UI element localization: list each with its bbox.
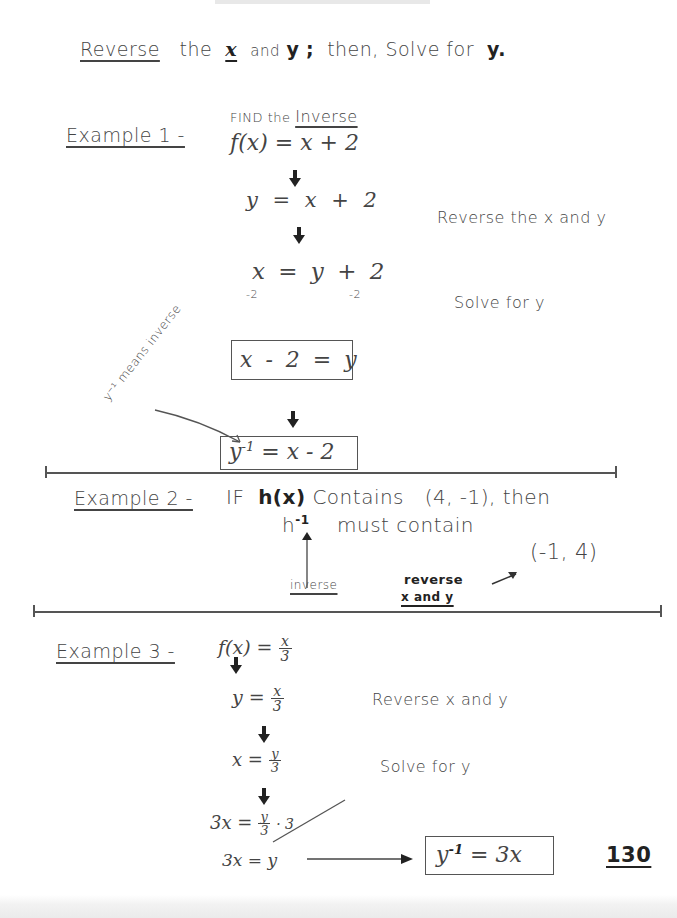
denominator: 3	[271, 699, 284, 713]
subtitle-inverse: Inverse	[295, 107, 357, 126]
down-arrow-icon	[287, 419, 299, 428]
fraction: y3	[258, 810, 270, 837]
boxed-result-3: y-1 = 3x	[425, 836, 554, 875]
intro-y: y	[286, 38, 299, 60]
numerator: y	[269, 747, 281, 761]
example1-step3: x = y + 2	[252, 258, 384, 284]
example3-step2-lhs: y =	[232, 686, 265, 708]
boxed-result-2: y-1 = x - 2	[220, 436, 358, 470]
intro-text-the: the	[180, 38, 213, 60]
right-arrow-icon	[305, 851, 415, 867]
intro-line: Reverse the x and y ; then, Solve for y.	[80, 38, 506, 60]
example2-hinv-sup: -1	[295, 513, 309, 527]
example2-note-xy: x and y	[401, 590, 454, 604]
example3-step1-lhs: f(x) =	[218, 636, 273, 658]
cancel-strike	[270, 797, 350, 847]
example3-step2-note: Reverse x and y	[372, 690, 508, 709]
divider-1-tick-left	[45, 466, 47, 478]
result-sup: -1	[448, 842, 463, 857]
down-arrow-icon	[258, 796, 270, 805]
boxed2-sup: -1	[241, 439, 254, 454]
example2-point2: (-1, 4)	[530, 540, 598, 564]
divider-2	[34, 611, 662, 613]
result-rhs: = 3x	[463, 842, 522, 867]
boxed-result-1: x - 2 = y	[231, 340, 353, 380]
fraction: y3	[269, 747, 281, 774]
example2-hinv: h	[282, 513, 295, 537]
example3-step3-note: Solve for y	[380, 757, 471, 776]
boxed-result-3-text: y-1 = 3x	[436, 842, 522, 867]
example1-step3-sub-left: -2	[246, 288, 258, 301]
numerator: x	[279, 634, 292, 649]
example2-func: h(x)	[258, 485, 305, 509]
boxed-result-1-text: x - 2 = y	[240, 347, 357, 372]
example2-if: IF	[226, 485, 244, 509]
inverse-annotation: y⁻¹ means inverse	[100, 302, 184, 404]
numerator: y	[258, 810, 270, 824]
divider-1-tick-right	[615, 466, 617, 478]
example1-step2: y = x + 2	[246, 188, 377, 212]
down-arrow-icon	[258, 734, 270, 743]
numerator: x	[271, 684, 284, 699]
down-arrow-icon	[289, 178, 301, 187]
intro-semicolon: ;	[306, 38, 314, 60]
boxed2-lhs: y	[229, 439, 241, 464]
denominator: 3	[258, 824, 270, 837]
example2-contains: Contains	[312, 485, 404, 509]
example2-note-inverse: inverse	[290, 578, 338, 592]
boxed2-rhs: = x - 2	[254, 439, 334, 464]
example3-step5: 3x = y	[222, 850, 277, 870]
divider-2-tick-left	[33, 605, 35, 617]
example3-step3-lhs: x =	[232, 749, 263, 770]
down-arrow-icon	[230, 665, 242, 674]
example2-point1: (4, -1),	[425, 485, 496, 509]
intro-y2: y.	[487, 38, 506, 60]
denominator: 3	[279, 649, 292, 663]
intro-and: and	[250, 42, 280, 60]
denominator: 3	[269, 761, 281, 774]
scan-edge	[0, 895, 677, 918]
example2-note-reverse: reverse	[404, 572, 463, 587]
subtitle-find: FIND the	[230, 110, 291, 125]
example3-step2: y = x3	[232, 684, 284, 713]
intro-reverse-word: Reverse	[80, 38, 160, 60]
boxed-result-2-text: y-1 = x - 2	[229, 439, 335, 464]
fraction: x3	[279, 634, 292, 663]
example1-label: Example 1 -	[66, 124, 185, 146]
example3-label: Example 3 -	[56, 640, 175, 662]
example1-step1: f(x) = x + 2	[230, 130, 359, 155]
example1-step2-note: Reverse the x and y	[437, 208, 606, 227]
page-number: 130	[606, 843, 651, 867]
example3-step3: x = y3	[232, 747, 281, 774]
example2-must-contain: must contain	[337, 513, 474, 537]
example3-step4-lhs: 3x =	[210, 812, 252, 833]
example2-label: Example 2 -	[74, 487, 193, 509]
example1-step3-sub-right: -2	[349, 288, 361, 301]
intro-x: x	[225, 38, 237, 60]
intro-text-then: then, Solve for	[327, 38, 474, 60]
divider-2-tick-right	[660, 605, 662, 617]
example3-step1: f(x) = x3	[218, 634, 292, 663]
example1-subtitle: FIND the Inverse	[230, 107, 358, 126]
fraction: x3	[271, 684, 284, 713]
result-lhs: y	[436, 842, 448, 867]
down-arrow-icon	[293, 235, 305, 244]
divider-1	[46, 472, 616, 474]
example2-line1: IF h(x) Contains (4, -1), then	[226, 485, 550, 509]
diagonal-arrow-icon	[490, 568, 522, 588]
scan-edge	[215, 0, 430, 4]
example2-then: then	[503, 485, 551, 509]
example1-step3-note: Solve for y	[454, 293, 545, 312]
